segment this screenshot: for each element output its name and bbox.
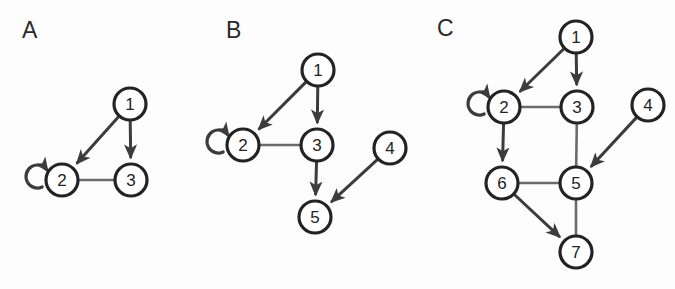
node-label-2: 2	[57, 171, 66, 190]
node-label-3: 3	[312, 136, 321, 155]
edge-4-to-5	[332, 159, 378, 201]
self-loop-node-2	[26, 165, 47, 188]
node-label-4: 4	[643, 96, 652, 115]
panel-label-layer: ABC	[22, 15, 454, 43]
edge-3-to-5	[316, 161, 317, 194]
node-2: 2	[227, 129, 259, 161]
panel-label-c: C	[437, 15, 454, 41]
panel-label-b: B	[226, 17, 241, 43]
self-loop-node-2	[207, 130, 228, 153]
node-label-6: 6	[497, 174, 506, 193]
edge-3-to-5	[576, 123, 577, 166]
node-label-2: 2	[499, 98, 508, 117]
node-1: 1	[302, 54, 334, 86]
node-2: 2	[46, 164, 78, 196]
graph-figure: 123123451234567 ABC	[0, 0, 675, 289]
node-label-1: 1	[571, 28, 580, 47]
node-label-1: 1	[125, 95, 134, 114]
node-4: 4	[632, 89, 664, 121]
node-6: 6	[486, 167, 518, 199]
node-5: 5	[299, 201, 331, 233]
edge-6-to-7	[514, 194, 559, 236]
edge-1-to-2	[77, 116, 119, 163]
node-2: 2	[488, 91, 520, 123]
node-5: 5	[560, 167, 592, 199]
node-3: 3	[561, 91, 593, 123]
node-label-1: 1	[313, 61, 322, 80]
edge-4-to-5	[592, 117, 637, 166]
node-label-3: 3	[572, 98, 581, 117]
edge-1-to-2	[520, 49, 564, 91]
node-3: 3	[115, 164, 147, 196]
node-label-2: 2	[238, 136, 247, 155]
node-layer: 123123451234567	[46, 21, 664, 268]
panel-label-a: A	[22, 17, 38, 43]
node-label-3: 3	[126, 171, 135, 190]
self-loop-node-2	[468, 92, 489, 115]
node-label-5: 5	[310, 208, 319, 227]
node-label-5: 5	[571, 174, 580, 193]
edge-1-to-2	[259, 82, 306, 129]
node-3: 3	[301, 129, 333, 161]
graph-canvas: 123123451234567 ABC	[0, 0, 675, 289]
node-7: 7	[560, 236, 592, 268]
node-1: 1	[560, 21, 592, 53]
node-1: 1	[114, 88, 146, 120]
edge-layer	[77, 49, 636, 237]
node-4: 4	[374, 132, 406, 164]
edge-2-to-6	[503, 123, 504, 160]
node-label-7: 7	[571, 243, 580, 262]
node-label-4: 4	[385, 139, 394, 158]
